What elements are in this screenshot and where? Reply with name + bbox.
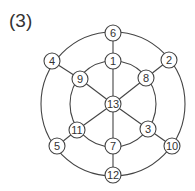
node-label: 10 — [166, 140, 178, 152]
node-label: 3 — [145, 123, 151, 135]
node-8: 8 — [138, 70, 154, 86]
node-10: 10 — [164, 138, 180, 154]
node-6: 6 — [105, 25, 121, 41]
node-2: 2 — [161, 52, 177, 68]
node-label: 2 — [166, 54, 172, 66]
node-1: 1 — [105, 53, 121, 69]
node-3: 3 — [140, 121, 156, 137]
node-label: 1 — [110, 55, 116, 67]
node-5: 5 — [49, 138, 65, 154]
node-7: 7 — [105, 138, 121, 154]
circular-graph-diagram: 61137124298113510 — [0, 0, 195, 191]
node-12: 12 — [105, 167, 121, 183]
node-label: 9 — [77, 73, 83, 85]
node-13: 13 — [105, 96, 121, 112]
node-label: 13 — [107, 98, 119, 110]
node-label: 5 — [54, 140, 60, 152]
node-label: 11 — [71, 124, 82, 136]
node-4: 4 — [44, 53, 60, 69]
node-label: 7 — [110, 140, 116, 152]
node-label: 8 — [143, 72, 149, 84]
node-label: 12 — [107, 169, 119, 181]
node-label: 6 — [110, 27, 116, 39]
node-9: 9 — [72, 71, 88, 87]
node-label: 4 — [49, 55, 55, 67]
node-11: 11 — [69, 122, 85, 138]
